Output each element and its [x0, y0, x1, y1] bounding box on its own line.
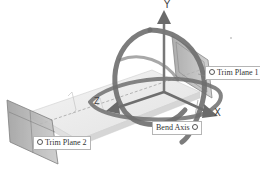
handle-dot-icon [192, 124, 198, 130]
z-axis-label: Z [94, 97, 99, 107]
y-axis-label: Y [164, 0, 170, 10]
handle-dot-icon [209, 69, 215, 75]
handle-dot-icon [37, 139, 43, 145]
trim-plane-2-label: Trim Plane 2 [45, 138, 87, 147]
x-axis-label: X [214, 108, 221, 118]
trim-plane-1-label: Trim Plane 1 [217, 68, 259, 77]
3d-viewport[interactable]: Y X Z Trim Plane 1 Trim Plane 2 Bend Axi… [0, 0, 260, 176]
trim-plane-1-tag[interactable]: Trim Plane 1 [205, 66, 260, 80]
stray-point [230, 37, 231, 38]
trim-plane-2-tag[interactable]: Trim Plane 2 [33, 136, 91, 150]
bend-axis-label: Bend Axis [156, 123, 190, 132]
bend-axis-tag[interactable]: Bend Axis [152, 121, 202, 135]
